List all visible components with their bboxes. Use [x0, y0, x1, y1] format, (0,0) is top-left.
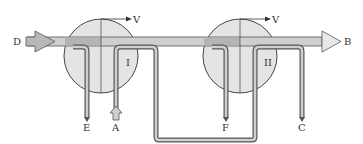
- label-A: A: [111, 122, 120, 133]
- label-F: F: [222, 122, 229, 133]
- label-unit-II: II: [264, 57, 272, 68]
- label-B: B: [344, 36, 351, 47]
- label-E: E: [83, 122, 90, 133]
- diagram-canvas: D B V V I II E A F C: [0, 0, 363, 144]
- label-V-I: V: [132, 14, 141, 25]
- outlet-arrow-B: [322, 31, 341, 52]
- label-unit-I: I: [126, 57, 130, 68]
- inlet-arrow-A: [110, 106, 122, 120]
- inlet-arrow-D: [26, 31, 55, 52]
- label-C: C: [298, 122, 306, 133]
- label-V-II: V: [271, 14, 280, 25]
- label-D: D: [13, 36, 21, 47]
